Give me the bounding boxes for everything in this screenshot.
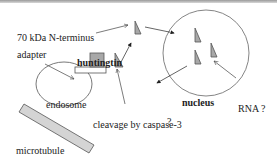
label-huntingtin: huntingtin (77, 58, 122, 68)
arrow-nuclear-export (157, 66, 187, 83)
nuclear-fragment-2 (211, 43, 217, 57)
nuclear-fragment-1 (195, 28, 201, 42)
arrow-n-terminus (96, 25, 128, 33)
label-adapter: adapter (17, 50, 46, 60)
nuclear-fragment-3 (195, 50, 201, 64)
label-endosome: endosome (46, 100, 87, 110)
released-fragment (135, 21, 141, 34)
label-nucleus: nucleus (182, 98, 214, 108)
nucleus (163, 10, 249, 96)
arrow-cleavage (117, 69, 125, 104)
diagram-canvas (0, 0, 277, 165)
label-microtubule: microtubule (16, 146, 64, 156)
label-rna: RNA ? (238, 104, 266, 114)
arrow-rna (214, 61, 236, 78)
label-n-terminus: 70 kDa N-terminus (17, 33, 94, 43)
label-question: ? (167, 117, 171, 127)
